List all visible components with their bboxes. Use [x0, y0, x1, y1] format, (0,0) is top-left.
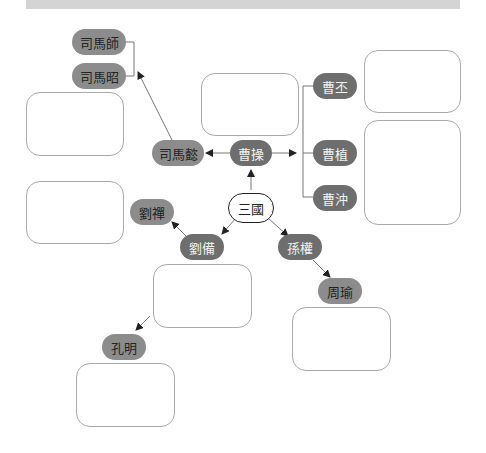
node-sima-shi[interactable]: 司馬師: [72, 29, 126, 55]
note-box[interactable]: [292, 307, 391, 371]
node-cao-cao[interactable]: 曹操: [230, 140, 272, 166]
node-liu-shan[interactable]: 劉禪: [130, 199, 174, 225]
node-sima-yi[interactable]: 司馬懿: [152, 140, 204, 166]
node-sun-quan[interactable]: 孫權: [278, 234, 322, 260]
node-cao-pi[interactable]: 曹丕: [313, 73, 357, 99]
note-box[interactable]: [26, 92, 124, 156]
note-box[interactable]: [364, 50, 461, 113]
node-sima-zhao[interactable]: 司馬昭: [72, 63, 126, 89]
node-kong-ming[interactable]: 孔明: [102, 334, 146, 360]
root-node[interactable]: 三國: [228, 193, 274, 223]
note-box[interactable]: [153, 264, 252, 328]
node-cao-chong[interactable]: 曹沖: [313, 185, 357, 211]
node-liu-bei[interactable]: 劉備: [180, 234, 224, 260]
node-zhou-yu[interactable]: 周瑜: [318, 278, 362, 304]
note-box[interactable]: [76, 363, 175, 427]
note-box[interactable]: [201, 73, 299, 136]
note-box[interactable]: [26, 181, 124, 244]
note-box[interactable]: [364, 120, 461, 225]
node-cao-zhi[interactable]: 曹植: [313, 140, 357, 166]
